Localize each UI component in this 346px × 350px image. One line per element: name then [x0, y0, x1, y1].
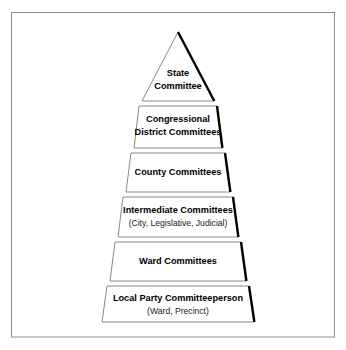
tier-1-label-line2: Committee [154, 81, 201, 91]
tier-3-label: County Committees [135, 167, 222, 177]
pyramid-tier-county-committees[interactable]: County Committees [126, 153, 230, 192]
tier-4-shape [118, 197, 238, 237]
pyramid-diagram: State Committee Congressional District C… [0, 0, 346, 350]
tier-5-label: Ward Committees [139, 256, 217, 266]
pyramid-tier-ward-committees[interactable]: Ward Committees [110, 242, 246, 281]
pyramid-tier-intermediate-committees[interactable]: Intermediate Committees (City, Legislati… [118, 197, 238, 237]
tier-6-label: Local Party Committeeperson [113, 293, 244, 303]
tier-4-sublabel: (City, Legislative, Judicial) [129, 218, 228, 228]
pyramid-tier-local-party-committeeperson[interactable]: Local Party Committeeperson (Ward, Preci… [102, 286, 254, 322]
tier-4-label: Intermediate Committees [123, 205, 233, 215]
tier-2-label-line1: Congressional [146, 114, 210, 124]
tier-2-label-line2: District Committees [135, 127, 222, 137]
tier-1-label-line1: State [167, 68, 189, 78]
pyramid-svg-canvas: State Committee Congressional District C… [0, 0, 346, 350]
pyramid-tier-congressional-district-committees[interactable]: Congressional District Committees [134, 106, 222, 148]
tier-6-shape [102, 286, 254, 322]
tier-6-sublabel: (Ward, Precinct) [147, 306, 209, 316]
